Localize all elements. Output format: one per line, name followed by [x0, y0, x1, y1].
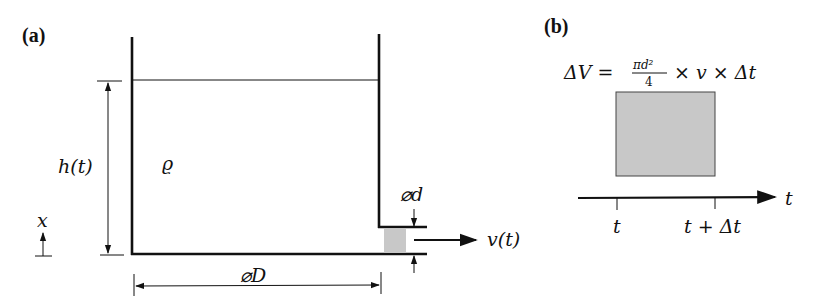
height-label: h(t) — [58, 155, 93, 177]
height-dimension — [97, 81, 124, 255]
tank-diameter-label: ⌀D — [240, 264, 266, 286]
tank — [131, 34, 427, 255]
density-label: ϱ — [162, 152, 174, 174]
time-axis-label: t — [785, 187, 793, 209]
formula-denominator: 4 — [645, 75, 653, 89]
volume-formula: ΔV = πd² 4 × v × Δt — [563, 58, 756, 89]
volume-rectangle — [616, 92, 715, 176]
outlet-diameter-label: ⌀d — [400, 183, 423, 205]
formula-lhs: ΔV = — [563, 61, 613, 83]
outlet-fluid — [384, 229, 406, 253]
formula-rhs: × v × Δt — [674, 61, 756, 83]
tick-start-label: t — [613, 215, 621, 237]
time-axis — [578, 197, 775, 210]
formula-numerator: πd² — [632, 58, 654, 72]
panel-a-label: (a) — [22, 24, 45, 47]
velocity-label: v(t) — [487, 228, 520, 250]
diagram-canvas: (a) h(t) ϱ x ⌀D ⌀d v(t) — [0, 0, 825, 303]
tick-end-label: t + Δt — [684, 215, 741, 237]
panel-b-label: (b) — [544, 15, 568, 38]
x-axis-label: x — [37, 209, 48, 231]
x-axis-indicator — [35, 233, 52, 256]
